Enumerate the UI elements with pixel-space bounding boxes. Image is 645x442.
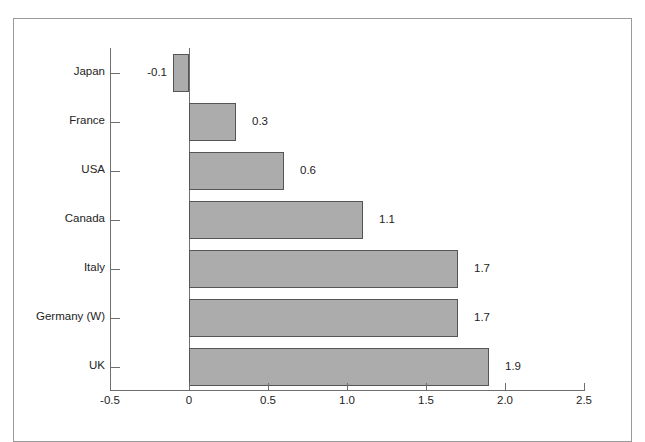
bar-value-label: -0.1: [141, 67, 167, 79]
value-axis-tick-label: 0.5: [248, 395, 288, 407]
category-axis-label: Canada: [65, 213, 105, 225]
bar-france: [189, 103, 236, 141]
bar-value-label: 1.7: [474, 312, 490, 324]
category-tick-japan: [111, 73, 120, 74]
bar-italy: [189, 250, 458, 288]
bar-canada: [189, 201, 363, 239]
bar-japan: [173, 54, 189, 92]
category-label-wrap: UK: [0, 360, 105, 374]
bar-uk: [189, 348, 489, 386]
value-tick-2_0: [505, 383, 506, 391]
value-tick-0: [189, 383, 190, 391]
value-tick-1_5: [426, 383, 427, 391]
category-axis-label: Japan: [74, 66, 105, 78]
category-tick-germany-w: [111, 318, 120, 319]
value-tick-0_5: [268, 383, 269, 391]
bar-value-label: 1.7: [474, 263, 490, 275]
bar-value-label: 0.3: [252, 116, 268, 128]
value-axis-tick-label: 1.5: [406, 395, 446, 407]
category-label-wrap: Italy: [0, 262, 105, 276]
bar-germany-w: [189, 299, 458, 337]
value-axis-tick-label: 1.0: [327, 395, 367, 407]
category-label-wrap: Germany (W): [0, 311, 105, 325]
bar-value-label: 1.9: [505, 361, 521, 373]
category-axis-label: France: [69, 115, 105, 127]
category-label-wrap: France: [0, 115, 105, 129]
value-axis-tick-label: 2.5: [564, 395, 604, 407]
category-label-wrap: USA: [0, 164, 105, 178]
category-label-wrap: Japan: [0, 66, 105, 80]
value-axis-tick-label: 0: [169, 395, 209, 407]
value-tick-1_0: [347, 383, 348, 391]
category-axis-label: Italy: [84, 262, 105, 274]
bar-value-label: 1.1: [379, 214, 395, 226]
category-axis-label: UK: [89, 360, 105, 372]
value-tick-2_5: [584, 383, 585, 391]
category-label-wrap: Canada: [0, 213, 105, 227]
category-tick-canada: [111, 220, 120, 221]
category-tick-france: [111, 122, 120, 123]
value-axis-tick-label: 2.0: [485, 395, 525, 407]
bar-usa: [189, 152, 284, 190]
category-axis-label: USA: [81, 164, 105, 176]
bar-value-label: 0.6: [300, 165, 316, 177]
category-tick-italy: [111, 269, 120, 270]
category-tick-usa: [111, 171, 120, 172]
category-axis-label: Germany (W): [36, 311, 105, 323]
category-tick-uk: [111, 367, 120, 368]
value-tick-_0_5: [110, 383, 111, 391]
value-axis-tick-label: -0.5: [90, 395, 130, 407]
